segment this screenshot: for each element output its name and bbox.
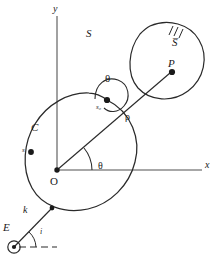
region-Sbar-path bbox=[130, 22, 204, 98]
point-s-dot bbox=[28, 149, 34, 155]
point-k-upper-dot bbox=[50, 206, 55, 211]
hatch-marks-group bbox=[169, 26, 183, 38]
theta-arc-origin bbox=[84, 148, 92, 170]
node-symbol-center-dot bbox=[12, 245, 16, 249]
point-P-dot bbox=[169, 69, 175, 75]
curve-C-path bbox=[25, 93, 137, 211]
figure-canvas: y x S S̅ P θ s₀ ρ C s θ O k E i bbox=[0, 0, 223, 263]
hatch-mark bbox=[179, 29, 183, 38]
inclination-arc bbox=[29, 232, 36, 247]
rho-line bbox=[57, 73, 170, 170]
k-segment-line bbox=[14, 208, 52, 247]
hatch-mark bbox=[169, 26, 173, 35]
origin-point-dot bbox=[54, 167, 59, 172]
point-s0-dot bbox=[104, 97, 110, 103]
hatch-mark bbox=[174, 27, 178, 36]
diagram-vector-layer bbox=[0, 0, 223, 263]
